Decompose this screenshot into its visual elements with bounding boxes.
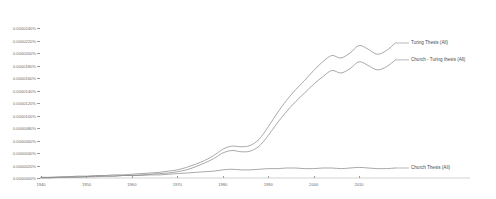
legend-item-label[interactable]: Church Thesis (All) xyxy=(411,165,450,170)
series-line[interactable] xyxy=(41,43,395,177)
series-line[interactable] xyxy=(41,60,395,178)
legend-item-label[interactable]: Turing Thesis (All) xyxy=(411,40,448,45)
ngram-chart: 0.0000240%0.0000220%0.0000200%0.0000180%… xyxy=(0,0,496,199)
legend-item-label[interactable]: Church - Turing thesis (All) xyxy=(411,57,465,62)
series-line[interactable] xyxy=(41,167,395,177)
